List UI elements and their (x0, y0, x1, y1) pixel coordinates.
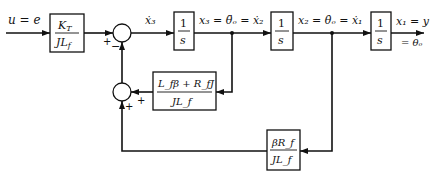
fb-inner-numerator: L_fβ + R_fJ (157, 78, 215, 90)
signal-x3: x₃ = θ̈ₒ = ẋ₂ (199, 14, 264, 27)
svg-text:1: 1 (278, 17, 285, 30)
integrator-3: 1 s (371, 12, 391, 50)
feedback-block-outer: βR_f JL_f (267, 130, 300, 170)
summing-junction-2: + + (113, 83, 145, 112)
svg-text:s: s (377, 34, 383, 47)
output-signal: x₁ = y = θₒ (391, 15, 430, 48)
fb-inner-denominator: JL_f (170, 96, 194, 108)
integrator-2: 1 s (271, 12, 293, 50)
block-diagram: u = e KT JLf + − ẋ₃ 1 s x₃ = θ̈ₒ = ẋ₂ 1 … (0, 0, 445, 178)
summing-junction-1: + − (103, 24, 131, 53)
input-label: u = e (8, 13, 41, 27)
signal-x2: x₂ = θ̇ₒ = ẋ₁ (298, 14, 363, 27)
gain-block: KT JLf (50, 14, 84, 52)
feedback-block-inner: L_fβ + R_fJ JL_f (153, 72, 216, 110)
svg-text:s: s (180, 34, 186, 47)
svg-text:s: s (278, 34, 284, 47)
sum1-minus-sign: − (111, 40, 120, 53)
signal-x3dot: ẋ₃ (145, 14, 156, 27)
svg-text:1: 1 (180, 17, 187, 30)
svg-text:1: 1 (377, 17, 384, 30)
integrator-1: 1 s (174, 12, 194, 50)
input-signal: u = e (6, 13, 50, 33)
output-label-1: x₁ = y (396, 15, 430, 28)
fb-outer-denominator: JL_f (270, 154, 294, 166)
sum2-plus-right: + (137, 95, 145, 106)
sum2-plus-bottom: + (125, 101, 133, 112)
fb-outer-numerator: βR_f (271, 137, 296, 149)
output-label-2: = θₒ (401, 37, 423, 48)
